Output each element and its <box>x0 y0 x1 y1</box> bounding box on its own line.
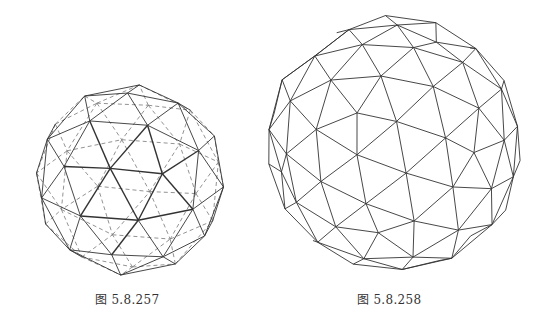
visible-edge <box>205 221 213 236</box>
hidden-edge <box>97 103 148 105</box>
visible-edge <box>397 121 446 137</box>
visible-edge <box>148 125 199 150</box>
figure-geodesic-sphere-257 <box>30 80 230 280</box>
visible-edge <box>458 189 491 230</box>
visible-edge <box>406 173 414 221</box>
visible-edge <box>446 138 474 153</box>
visible-edge <box>286 129 316 153</box>
visible-edge <box>296 182 321 203</box>
visible-edge <box>362 45 413 48</box>
visible-edge <box>282 56 315 80</box>
visible-edge <box>128 93 148 125</box>
hidden-edge <box>67 140 122 151</box>
visible-edge <box>413 221 414 257</box>
visible-edge <box>112 255 121 275</box>
visible-edge <box>397 86 434 121</box>
visible-edge <box>162 150 198 173</box>
visible-edge <box>37 173 42 198</box>
visible-edge <box>453 153 474 187</box>
visible-edge <box>491 140 504 188</box>
figure-caption-257: 图 5.8.257 <box>95 290 159 307</box>
visible-edge <box>463 49 476 63</box>
sphere-wireframe-diagram <box>263 15 525 275</box>
visible-edge <box>364 259 402 270</box>
hidden-edge <box>122 140 180 144</box>
visible-edge <box>366 204 378 233</box>
visible-edge <box>474 140 504 152</box>
visible-edge <box>504 81 517 127</box>
visible-edge <box>112 220 139 254</box>
hidden-edge <box>82 235 113 257</box>
visible-edge <box>269 101 290 130</box>
visible-edge <box>378 233 413 257</box>
visible-edge <box>414 48 434 87</box>
visible-edge <box>199 150 224 187</box>
visible-edge <box>315 56 331 80</box>
visible-edge <box>446 138 453 187</box>
visible-edge <box>414 221 458 230</box>
visible-edge <box>269 130 286 154</box>
hidden-edge <box>112 235 170 239</box>
hidden-edge <box>196 194 213 221</box>
visible-edge <box>316 113 357 130</box>
visible-edge <box>476 49 502 90</box>
visible-edge <box>148 125 163 174</box>
hidden-edge <box>122 140 150 192</box>
figure-caption-258: 图 5.8.258 <box>357 290 421 307</box>
visible-edge <box>453 187 458 230</box>
visible-edge <box>285 202 296 209</box>
visible-edge <box>474 153 491 189</box>
visible-edge <box>479 108 504 140</box>
hidden-edge <box>150 192 196 194</box>
visible-edge <box>357 121 397 154</box>
visible-edge <box>406 173 453 187</box>
visible-edge <box>321 182 336 227</box>
visible-edge <box>397 23 436 25</box>
hidden-edge <box>98 186 113 235</box>
visible-edge <box>128 93 179 103</box>
visible-edge <box>436 42 475 48</box>
visible-edge <box>492 177 513 225</box>
visible-edge <box>504 140 513 177</box>
visible-edge <box>353 259 364 264</box>
visible-edge <box>282 80 290 101</box>
visible-edge <box>504 126 517 140</box>
visible-edge <box>331 76 381 80</box>
visible-edge <box>517 126 520 160</box>
visible-edge <box>414 42 437 47</box>
visible-edge <box>362 45 381 76</box>
hidden-edge <box>196 162 218 193</box>
hidden-edge <box>148 105 179 144</box>
visible-edge <box>336 227 379 233</box>
visible-edge <box>501 89 504 140</box>
hidden-edge <box>122 105 149 139</box>
visible-edge <box>501 89 517 126</box>
hidden-edge <box>170 221 212 239</box>
visible-edge <box>274 80 282 113</box>
visible-edge <box>357 76 381 113</box>
visible-edge <box>85 96 90 121</box>
visible-edge <box>47 139 64 166</box>
visible-edge <box>90 121 110 168</box>
visible-edge <box>321 155 357 182</box>
hidden-edge <box>67 151 98 186</box>
visible-edge <box>501 81 504 90</box>
visible-edge <box>178 103 198 150</box>
visible-edge <box>479 89 502 108</box>
visible-edge <box>436 42 462 62</box>
figure-geodesic-sphere-258 <box>263 15 525 275</box>
visible-edge <box>506 177 514 210</box>
visible-edge <box>357 155 406 173</box>
visible-edge <box>110 168 138 220</box>
visible-edge <box>357 113 396 122</box>
visible-edge <box>90 121 148 125</box>
visible-edge <box>331 45 362 80</box>
visible-edge <box>290 101 316 130</box>
visible-edge <box>366 204 414 221</box>
visible-edge <box>406 138 445 173</box>
visible-edge <box>381 76 397 121</box>
visible-edge <box>64 166 80 216</box>
visible-edge <box>281 154 286 172</box>
visible-edge <box>413 230 458 257</box>
visible-edge <box>269 113 274 129</box>
